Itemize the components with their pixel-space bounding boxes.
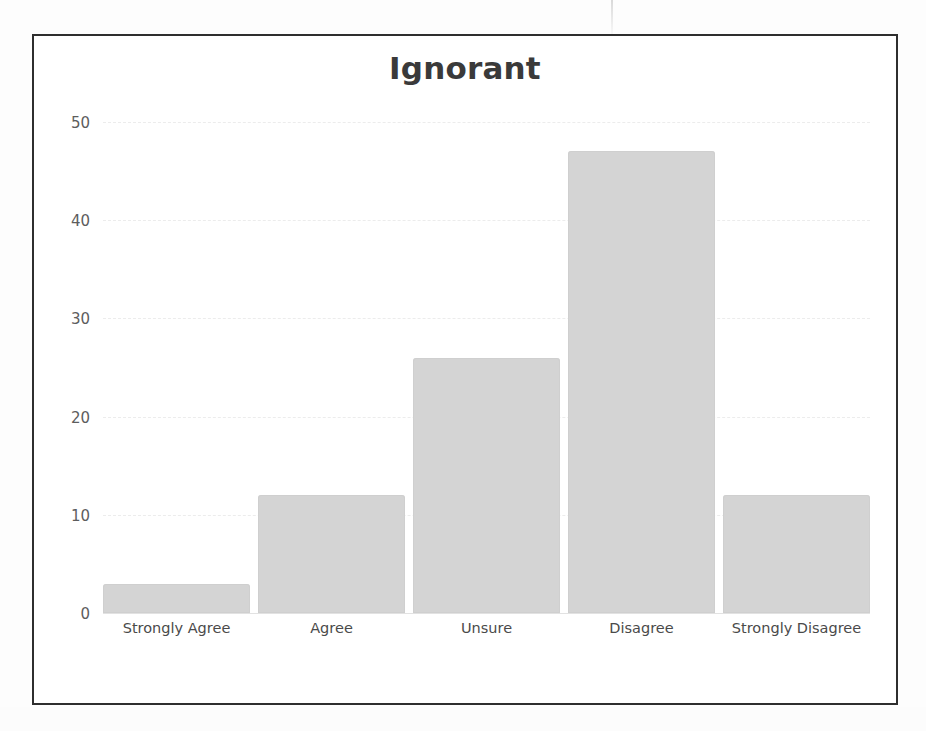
bar-slot: Strongly Disagree [723, 122, 870, 613]
bars-layer: Strongly Agree Agree Unsure Disagree Str… [103, 122, 870, 613]
gridline-zero: 0 [103, 613, 870, 615]
x-axis-category-label: Strongly Disagree [732, 620, 861, 636]
bar[interactable] [568, 151, 715, 613]
bar[interactable] [723, 495, 870, 613]
scan-artifact-icon [611, 0, 613, 34]
chart-frame: Ignorant 50 40 30 20 10 0 Strongly Agree [32, 34, 898, 705]
bar-slot: Strongly Agree [103, 122, 250, 613]
x-axis-category-label: Agree [310, 620, 353, 636]
bar-slot: Unsure [413, 122, 560, 613]
y-axis-tick-label: 40 [71, 212, 90, 230]
y-axis-tick-label: 10 [71, 507, 90, 525]
y-axis-tick-label: 50 [71, 114, 90, 132]
bar-slot: Agree [258, 122, 405, 613]
y-axis-tick-label: 20 [71, 409, 90, 427]
chart-title: Ignorant [34, 50, 896, 86]
bar[interactable] [258, 495, 405, 613]
x-axis-category-label: Unsure [461, 620, 512, 636]
bar[interactable] [413, 358, 560, 613]
y-axis-tick-label: 0 [80, 605, 90, 623]
bar[interactable] [103, 584, 250, 613]
page-background-top [0, 0, 926, 34]
plot-area: 50 40 30 20 10 0 Strongly Agree Agree [103, 122, 870, 613]
x-axis-category-label: Strongly Agree [123, 620, 231, 636]
y-axis-tick-label: 30 [71, 310, 90, 328]
page-background-bottom [0, 707, 926, 731]
bar-slot: Disagree [568, 122, 715, 613]
x-axis-category-label: Disagree [609, 620, 673, 636]
